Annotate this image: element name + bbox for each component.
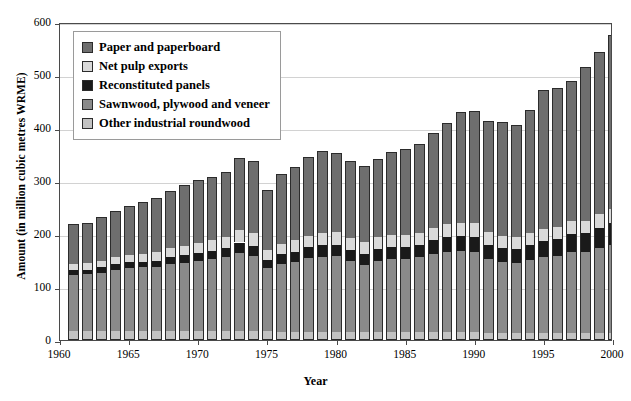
bar-1978[interactable]	[303, 157, 314, 340]
bar-segment	[525, 260, 536, 333]
bar-1990[interactable]	[469, 111, 480, 340]
bar-1980[interactable]	[331, 153, 342, 340]
bar-1967[interactable]	[151, 198, 162, 340]
bar-1961[interactable]	[68, 224, 79, 340]
x-axis-title: Year	[0, 374, 631, 389]
bar-segment	[538, 90, 549, 229]
bar-segment	[193, 253, 204, 261]
bar-segment	[331, 153, 342, 231]
bar-1988[interactable]	[442, 123, 453, 340]
bar-1987[interactable]	[428, 133, 439, 340]
x-axis-tick-label: 1995	[518, 348, 568, 360]
bar-segment	[290, 167, 301, 241]
x-axis-tick	[406, 340, 407, 345]
bar-1965[interactable]	[124, 206, 135, 340]
bar-segment	[290, 332, 301, 340]
bar-1966[interactable]	[138, 202, 149, 340]
bar-1973[interactable]	[234, 158, 245, 340]
bar-segment	[469, 332, 480, 340]
bar-segment	[290, 262, 301, 332]
bar-1998[interactable]	[580, 67, 591, 340]
chart-legend: Paper and paperboardNet pulp exportsReco…	[73, 31, 281, 140]
bar-1971[interactable]	[207, 177, 218, 340]
bar-segment	[386, 332, 397, 340]
bar-segment	[566, 221, 577, 234]
bar-1962[interactable]	[82, 223, 93, 340]
x-axis-tick-label: 1985	[380, 348, 430, 360]
bar-1993[interactable]	[511, 125, 522, 340]
bar-segment	[234, 331, 245, 340]
bar-segment	[124, 331, 135, 340]
bar-segment	[608, 223, 611, 245]
bar-segment	[414, 257, 425, 332]
bar-1976[interactable]	[276, 174, 287, 340]
bar-1995[interactable]	[538, 90, 549, 340]
bar-segment	[580, 233, 591, 252]
bar-segment	[511, 333, 522, 340]
bar-1979[interactable]	[317, 151, 328, 340]
bar-segment	[96, 217, 107, 260]
bar-segment	[552, 227, 563, 239]
bar-segment	[317, 332, 328, 340]
bar-2000[interactable]	[608, 35, 611, 340]
bar-segment	[580, 67, 591, 221]
bar-segment	[594, 333, 605, 340]
bar-1969[interactable]	[179, 185, 190, 340]
bar-1986[interactable]	[414, 144, 425, 340]
bar-segment	[345, 332, 356, 340]
bar-1963[interactable]	[96, 217, 107, 340]
bar-segment	[538, 229, 549, 241]
bar-segment	[580, 333, 591, 340]
bar-segment	[456, 251, 467, 332]
x-axis-tick	[613, 340, 614, 345]
bar-1982[interactable]	[359, 166, 370, 340]
bar-segment	[386, 259, 397, 332]
legend-item: Other industrial roundwood	[82, 114, 270, 133]
bar-segment	[303, 157, 314, 235]
bar-1974[interactable]	[248, 161, 259, 340]
bar-segment	[234, 243, 245, 253]
bar-1996[interactable]	[552, 88, 563, 340]
bar-1992[interactable]	[497, 122, 508, 340]
bar-1999[interactable]	[594, 52, 605, 340]
bar-segment	[511, 237, 522, 249]
bar-segment	[442, 123, 453, 224]
bar-1972[interactable]	[221, 172, 232, 340]
bar-1970[interactable]	[193, 180, 204, 340]
bar-segment	[303, 332, 314, 340]
bar-1984[interactable]	[386, 152, 397, 340]
bar-1977[interactable]	[290, 167, 301, 340]
bar-segment	[483, 121, 494, 232]
bar-segment	[359, 254, 370, 265]
bar-segment	[469, 223, 480, 236]
bar-1991[interactable]	[483, 121, 494, 340]
bar-segment	[276, 244, 287, 255]
bar-segment	[179, 263, 190, 331]
bar-1975[interactable]	[262, 190, 273, 340]
bar-1964[interactable]	[110, 211, 121, 340]
bar-1981[interactable]	[345, 161, 356, 340]
legend-swatch-icon	[82, 42, 93, 53]
y-axis-tick	[55, 24, 60, 25]
bar-segment	[359, 332, 370, 340]
x-axis-tick	[544, 340, 545, 345]
bar-segment	[428, 228, 439, 240]
bar-segment	[566, 234, 577, 252]
y-axis-tick	[55, 289, 60, 290]
bar-segment	[414, 144, 425, 233]
bar-1994[interactable]	[525, 110, 536, 340]
bar-segment	[608, 245, 611, 333]
bar-1968[interactable]	[165, 191, 176, 340]
bar-1989[interactable]	[456, 112, 467, 340]
bar-segment	[165, 264, 176, 331]
bar-1983[interactable]	[373, 159, 384, 340]
bar-segment	[469, 111, 480, 223]
bar-segment	[373, 261, 384, 332]
bar-segment	[221, 172, 232, 237]
bar-1985[interactable]	[400, 149, 411, 340]
bar-segment	[165, 248, 176, 257]
bar-1997[interactable]	[566, 81, 577, 340]
bar-segment	[456, 236, 467, 251]
bar-segment	[456, 332, 467, 340]
legend-item: Net pulp exports	[82, 57, 270, 76]
